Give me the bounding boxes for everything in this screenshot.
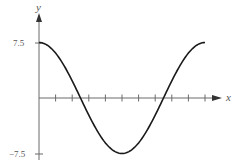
y-axis-arrow-icon (36, 13, 42, 22)
y-tick-label-min: −7.5 (9, 149, 26, 159)
plot-area: y x 7.5 −7.5 (0, 0, 241, 164)
x-axis-label: x (225, 91, 231, 103)
y-axis-label: y (35, 1, 41, 13)
cosine-chart: y x 7.5 −7.5 (0, 0, 241, 164)
x-axis-arrow-icon (212, 95, 222, 101)
y-tick-label-max: 7.5 (13, 38, 25, 48)
